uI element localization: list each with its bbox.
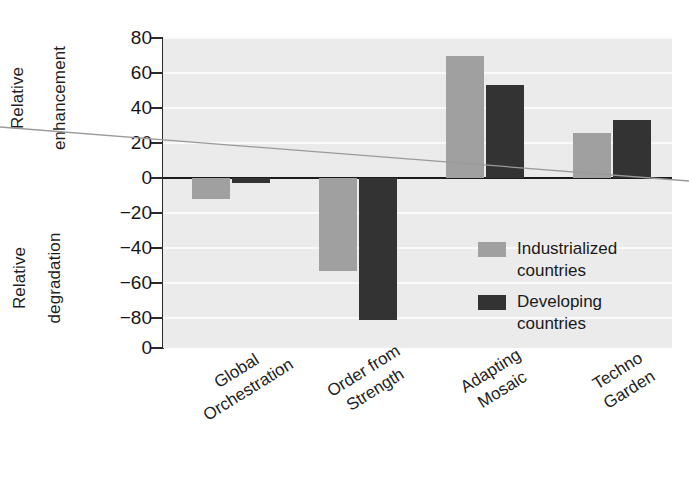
- y-axis-tick-labels: 806040200−20−40−60−800: [96, 0, 152, 477]
- y-tick-label: 20: [106, 132, 152, 154]
- y-axis-title-degradation-line2: degradation: [45, 233, 65, 324]
- y-tick-mark: [151, 142, 163, 144]
- bar: [446, 56, 484, 179]
- legend-item-label: Industrializedcountries: [517, 238, 617, 282]
- y-tick-label: −80: [106, 307, 152, 329]
- y-tick-mark: [151, 212, 163, 214]
- legend-swatch-icon: [478, 242, 506, 257]
- y-axis-title-enhancement-line2: enhancement: [50, 46, 70, 150]
- y-tick-mark: [151, 177, 163, 179]
- legend-item-label: Developingcountries: [517, 291, 602, 335]
- y-tick-mark: [151, 72, 163, 74]
- y-tick-mark: [151, 247, 163, 249]
- y-tick-label: 80: [106, 27, 152, 49]
- bar-chart: Relative enhancement Relative degradatio…: [0, 0, 689, 477]
- bar: [613, 120, 651, 178]
- y-tick-label: 0: [106, 337, 152, 359]
- y-tick-label: −60: [106, 272, 152, 294]
- y-tick-label: 40: [106, 97, 152, 119]
- legend-item: Developingcountries: [478, 291, 678, 335]
- y-tick-mark: [151, 347, 163, 349]
- bar: [192, 178, 230, 199]
- gridline: [163, 212, 672, 214]
- gridline: [163, 37, 672, 39]
- legend: IndustrializedcountriesDevelopingcountri…: [478, 238, 678, 344]
- y-tick-label: 0: [106, 167, 152, 189]
- y-tick-mark: [151, 107, 163, 109]
- bar: [573, 133, 611, 179]
- legend-item: Industrializedcountries: [478, 238, 678, 282]
- y-tick-label: −40: [106, 237, 152, 259]
- y-tick-mark: [151, 317, 163, 319]
- legend-swatch-icon: [478, 295, 506, 310]
- y-tick-mark: [151, 37, 163, 39]
- gridline: [163, 72, 672, 74]
- bar: [359, 178, 397, 320]
- bar: [486, 85, 524, 178]
- y-axis-title-degradation-line1: Relative: [10, 247, 30, 309]
- gridline: [163, 107, 672, 109]
- y-axis-title-enhancement-line1: Relative: [8, 67, 28, 129]
- bar: [319, 178, 357, 271]
- y-tick-mark: [151, 282, 163, 284]
- bar: [232, 178, 270, 183]
- y-tick-label: −20: [106, 202, 152, 224]
- y-tick-label: 60: [106, 62, 152, 84]
